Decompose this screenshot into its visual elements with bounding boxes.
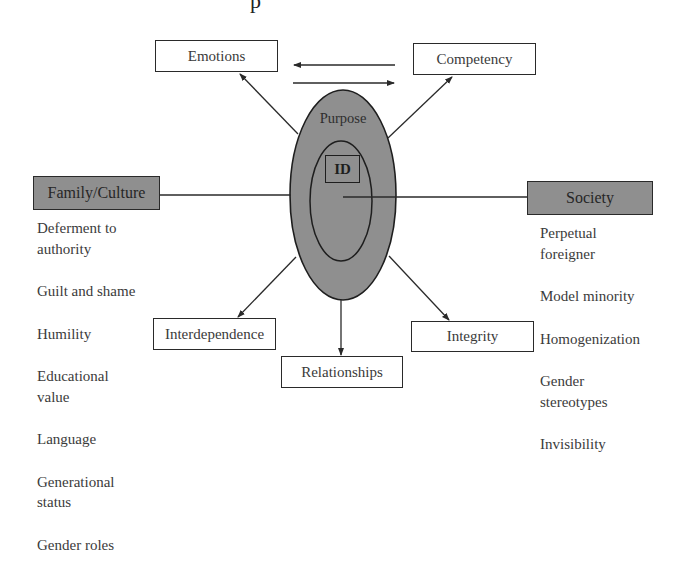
list-item: Model minority [540,286,640,307]
list-item: Educational value [37,366,135,407]
id-box: ID [325,155,360,183]
society-box: Society [527,181,653,215]
identity-diagram: p Purpose ID Emotions Competency [0,0,676,577]
list-item: Generational status [37,472,135,513]
arrow-to-integrity [389,256,449,320]
list-item: Deferment to authority [37,218,135,259]
interdependence-box: Interdependence [153,318,276,350]
list-item: Gender roles [37,535,135,556]
list-item: Invisibility [540,434,640,455]
arrow-to-competency [388,77,452,138]
list-item: Gender stereotypes [540,371,640,412]
purpose-label: Purpose [320,110,367,127]
arrow-to-emotions [240,74,298,134]
family-culture-list: Deferment to authority Guilt and shame H… [37,218,135,577]
list-item: Homogenization [540,329,640,350]
competency-box: Competency [413,43,536,75]
society-list: Perpetual foreigner Model minority Homog… [540,223,640,477]
family-culture-box: Family/Culture [33,176,160,210]
relationships-box: Relationships [281,356,403,388]
list-item: Perpetual foreigner [540,223,640,264]
list-item: Humility [37,324,135,345]
list-item: Language [37,429,135,450]
list-item: Guilt and shame [37,281,135,302]
integrity-box: Integrity [411,321,534,352]
arrow-to-interdependence [238,257,296,317]
emotions-box: Emotions [155,40,278,72]
